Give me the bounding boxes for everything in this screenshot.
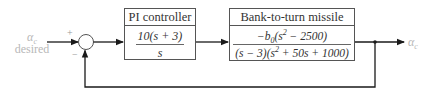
input-label: αc desired: [14, 31, 50, 55]
plant-den-prefix: (s − 3)(s: [235, 47, 275, 59]
plant-num-mid: (s: [274, 30, 282, 42]
plant-num-prefix: −b: [257, 30, 271, 42]
missile-plant-block: Bank-to-turn missile −b0(s2 − 2500) (s −…: [229, 8, 355, 61]
input-caption: desired: [15, 42, 50, 56]
output-subscript: c: [414, 42, 418, 51]
pi-controller-title: PI controller: [125, 9, 195, 26]
pi-controller-transfer-function: 10(s + 3) s: [125, 26, 195, 60]
summing-junction: [79, 35, 94, 50]
pi-fraction-bar: [136, 44, 184, 45]
minus-sign: −: [72, 49, 78, 60]
pi-denominator: s: [125, 46, 195, 60]
plant-den-suffix: + 50s + 1000): [279, 47, 349, 59]
pi-controller-block: PI controller 10(s + 3) s: [124, 8, 196, 60]
plant-transfer-function: −b0(s2 − 2500) (s − 3)(s2 + 50s + 1000): [230, 26, 354, 60]
output-label: αc: [408, 35, 418, 50]
plus-sign: +: [67, 27, 73, 38]
pi-numerator: 10(s + 3): [125, 29, 195, 43]
plant-denominator: (s − 3)(s2 + 50s + 1000): [230, 46, 354, 60]
plant-title: Bank-to-turn missile: [230, 9, 354, 26]
signal-wires: [0, 0, 425, 96]
plant-numerator: −b0(s2 − 2500): [230, 29, 354, 43]
plant-num-suffix: − 2500): [287, 30, 327, 42]
plant-fraction-bar: [233, 44, 351, 45]
